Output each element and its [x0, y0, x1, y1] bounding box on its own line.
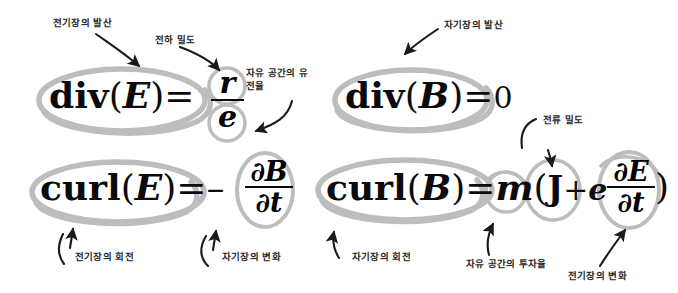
label-dedt: 전기장의 변화: [568, 269, 627, 282]
label-dbdt: 자기장의 변화: [222, 250, 281, 263]
arrow-dbdt: [201, 236, 208, 266]
arrow-charge-density: [180, 47, 219, 70]
label-curl-e: 전기장의 회전: [75, 250, 134, 263]
arrow-curl-b: [333, 232, 339, 258]
label-permittivity: 자유 공간의 유전율: [246, 66, 312, 92]
arrow-dedt: [600, 230, 625, 266]
arrow-current-density: [522, 119, 536, 148]
maxwell-equations-figure: div(E)= r e div(B)=0 curl(E)=– ∂B ∂t cur…: [0, 0, 678, 293]
arrow-permittivity: [256, 101, 292, 131]
arrow-curl-e: [59, 234, 64, 264]
arrow-permeability: [488, 224, 493, 255]
arrow-div-e: [96, 34, 139, 66]
label-permeability: 자유 공간의 투자율: [466, 257, 547, 270]
label-div-b: 자기장의 발산: [444, 18, 503, 31]
arrow-current-density-head: [548, 150, 552, 166]
label-charge-density: 전하 밀도: [155, 33, 195, 46]
label-curl-b: 자기장의 회전: [352, 250, 411, 263]
label-div-e: 전기장의 발산: [53, 16, 112, 29]
label-current-density: 전류 밀도: [543, 113, 583, 126]
arrow-curl-e-head: [70, 229, 73, 248]
arrow-div-b: [405, 29, 438, 54]
arrow-dbdt-head: [213, 231, 216, 250]
